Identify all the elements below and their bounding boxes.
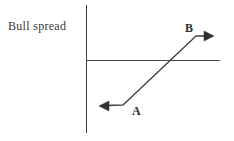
arrowhead-right-icon: [204, 31, 214, 41]
payoff-curve-group: [99, 31, 214, 111]
axes-group: [86, 5, 220, 133]
payoff-curve: [105, 36, 207, 106]
segment-label-a: A: [132, 105, 141, 117]
segment-label-b: B: [185, 22, 193, 34]
page-title: Bull spread: [8, 20, 66, 32]
figure-canvas: Bull spread A B: [0, 0, 234, 141]
arrowhead-left-icon: [99, 101, 109, 111]
